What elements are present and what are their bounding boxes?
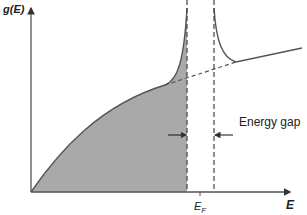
fermi-sub: F (201, 206, 206, 215)
filled-band-region (31, 8, 187, 192)
upper-band-curve (214, 8, 302, 62)
x-axis-label: E (286, 198, 294, 212)
fermi-energy-label: EF (194, 200, 206, 215)
y-axis-label: g(E) (3, 3, 24, 15)
density-of-states-diagram (0, 0, 307, 215)
energy-gap-label: Energy gap (239, 115, 300, 129)
